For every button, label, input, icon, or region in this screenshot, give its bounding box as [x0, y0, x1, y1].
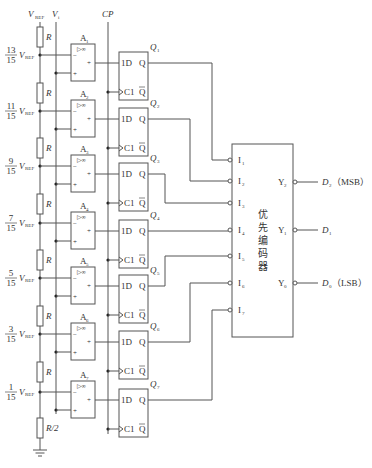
svg-text:−: − [73, 163, 77, 171]
svg-text:Q: Q [150, 98, 157, 108]
svg-text:15: 15 [7, 392, 17, 402]
svg-text:6: 6 [157, 327, 160, 332]
svg-text:Q: Q [139, 366, 146, 376]
priority-encoder: I1I2I3I4I5I6I7Y2D2（MSB）Y1D1Y0D0（LSB）优先编码… [228, 144, 369, 337]
svg-text:REF: REF [35, 15, 44, 20]
encoder-title-char: 优 [258, 208, 268, 220]
svg-text:Q: Q [139, 226, 146, 236]
svg-text:REF: REF [25, 111, 34, 116]
svg-text:C1: C1 [124, 424, 135, 434]
comparator-stage: 115VREFA7▷∞−++1DQC1QQ7 [5, 370, 160, 437]
d-flip-flop: 1DQC1Q [119, 163, 148, 211]
svg-text:▷∞: ▷∞ [77, 46, 86, 52]
svg-text:Q: Q [150, 379, 157, 389]
svg-text:Q: Q [139, 281, 146, 291]
svg-text:Q: Q [150, 265, 157, 275]
resistor: R [37, 138, 52, 158]
svg-text:D: D [321, 278, 329, 288]
resistor: R [37, 250, 52, 270]
q-output-label: Q7 [150, 379, 160, 390]
svg-text:5: 5 [157, 271, 160, 276]
svg-text:15: 15 [7, 55, 17, 65]
svg-text:I: I [238, 278, 241, 288]
svg-text:D: D [321, 177, 329, 187]
comparator: A4▷∞−++ [71, 201, 95, 249]
q-output-label: Q2 [150, 98, 160, 109]
svg-text:▷∞: ▷∞ [77, 269, 86, 275]
svg-text:+: + [73, 349, 77, 357]
svg-text:+: + [87, 227, 91, 235]
svg-text:（MSB）: （MSB） [332, 177, 369, 187]
svg-text:Q: Q [139, 58, 146, 68]
q-output-label: Q6 [150, 321, 160, 332]
svg-text:REF: REF [25, 55, 34, 60]
svg-text:−: − [73, 108, 77, 116]
resistor: R [37, 194, 52, 214]
svg-text:R/2: R/2 [45, 423, 59, 433]
d-flip-flop: 1DQC1Q [119, 389, 148, 437]
svg-text:11: 11 [7, 101, 16, 111]
svg-text:REF: REF [25, 392, 34, 397]
svg-text:Q: Q [139, 310, 146, 320]
svg-text:1: 1 [86, 39, 89, 44]
svg-text:4: 4 [157, 216, 160, 221]
svg-text:6: 6 [86, 318, 89, 323]
svg-text:+: + [73, 70, 77, 78]
svg-text:1D: 1D [121, 169, 133, 179]
q-output-label: Q1 [150, 42, 160, 53]
svg-text:I: I [238, 198, 241, 208]
resistor: R [37, 362, 52, 382]
signal-wire [148, 283, 228, 342]
comparator: A1▷∞−++ [71, 33, 95, 81]
svg-text:5: 5 [86, 262, 89, 267]
svg-text:Q: Q [150, 42, 157, 52]
encoder-title-char: 器 [258, 261, 268, 272]
svg-text:15: 15 [7, 166, 17, 176]
svg-text:I: I [238, 225, 241, 235]
svg-text:▷∞: ▷∞ [77, 157, 86, 163]
svg-text:15: 15 [7, 111, 17, 121]
svg-text:+: + [87, 59, 91, 67]
svg-text:C1: C1 [124, 198, 135, 208]
svg-text:C1: C1 [124, 87, 135, 97]
svg-text:Q: Q [139, 337, 146, 347]
encoder-title-char: 编 [258, 234, 268, 246]
svg-text:+: + [87, 396, 91, 404]
signal-wire [148, 119, 228, 181]
encoder-title-char: 先 [258, 222, 268, 233]
svg-text:+: + [73, 126, 77, 134]
svg-text:R: R [45, 143, 52, 153]
d-flip-flop: 1DQC1Q [119, 52, 148, 100]
svg-text:▷∞: ▷∞ [77, 102, 86, 108]
flash-adc-diagram: V REF V i CP RRRRRRRR/21315VREFA1▷∞−++1D… [0, 0, 372, 468]
svg-text:REF: REF [25, 334, 34, 339]
svg-text:Q: Q [139, 198, 146, 208]
svg-text:2: 2 [157, 104, 160, 109]
signal-wire [148, 310, 228, 400]
comparator: A7▷∞−++ [71, 370, 95, 418]
resistor: R [37, 306, 52, 326]
svg-text:Q: Q [150, 321, 157, 331]
svg-text:9: 9 [9, 156, 14, 166]
d-flip-flop: 1DQC1Q [119, 331, 148, 379]
svg-text:1D: 1D [121, 114, 133, 124]
svg-text:R: R [45, 255, 52, 265]
svg-text:1D: 1D [121, 226, 133, 236]
svg-text:C1: C1 [124, 143, 135, 153]
ref-voltage-label: 315VREF [5, 324, 34, 344]
svg-text:i: i [58, 15, 60, 20]
svg-text:7: 7 [9, 213, 14, 223]
svg-text:−: − [73, 331, 77, 339]
vi-label: V i [52, 9, 60, 20]
svg-text:I: I [238, 176, 241, 186]
svg-text:I: I [238, 251, 241, 261]
svg-text:REF: REF [25, 223, 34, 228]
svg-text:I: I [238, 155, 241, 165]
svg-text:7: 7 [157, 385, 160, 390]
encoder-title-char: 码 [258, 248, 268, 259]
svg-text:3: 3 [9, 324, 14, 334]
svg-text:7: 7 [86, 376, 89, 381]
svg-text:Q: Q [139, 255, 146, 265]
resistor: R [37, 27, 52, 47]
svg-text:−: − [73, 52, 77, 60]
